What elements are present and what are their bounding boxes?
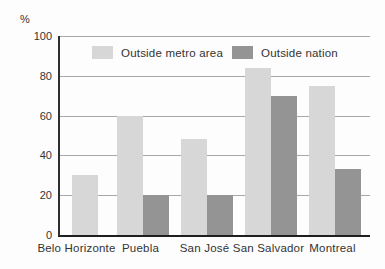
y-tick-label-20: 20 — [18, 189, 52, 201]
legend-label-outside-metro-area: Outside metro area — [121, 47, 223, 59]
x-label-belo-horizonte: Belo Horizonte — [37, 242, 115, 254]
legend-label-outside-nation: Outside nation — [261, 47, 338, 59]
legend-swatch-outside-metro-area — [92, 46, 113, 59]
bar-outside-nation-san-salvador — [271, 96, 297, 235]
gridline-80 — [60, 76, 370, 77]
x-label-san-salvador: San Salvador — [233, 242, 304, 254]
bar-outside-metro-area-san-jos — [181, 139, 207, 235]
bar-outside-metro-area-montreal — [309, 86, 335, 235]
bar-outside-metro-area-san-salvador — [245, 68, 271, 235]
y-axis-unit-label: % — [20, 13, 30, 25]
plot-area — [58, 36, 370, 237]
legend-item-outside-nation: Outside nation — [232, 46, 338, 59]
bar-chart: % 020406080100 Belo HorizontePueblaSan J… — [0, 0, 385, 269]
bar-outside-nation-montreal — [335, 169, 361, 235]
y-tick-label-40: 40 — [18, 149, 52, 161]
legend-item-outside-metro-area: Outside metro area — [92, 46, 223, 59]
y-tick-label-80: 80 — [18, 70, 52, 82]
x-label-san-jos: San José — [180, 242, 230, 254]
bar-outside-nation-san-jos — [207, 195, 233, 235]
legend-swatch-outside-nation — [232, 46, 253, 59]
x-label-montreal: Montreal — [309, 242, 355, 254]
bar-outside-metro-area-belo-horizonte — [72, 175, 98, 235]
y-tick-label-0: 0 — [18, 229, 52, 241]
gridline-100 — [60, 36, 370, 37]
y-tick-label-60: 60 — [18, 110, 52, 122]
y-tick-label-100: 100 — [18, 30, 52, 42]
x-label-puebla: Puebla — [122, 242, 159, 254]
bar-outside-nation-puebla — [143, 195, 169, 235]
bar-outside-metro-area-puebla — [117, 116, 143, 235]
